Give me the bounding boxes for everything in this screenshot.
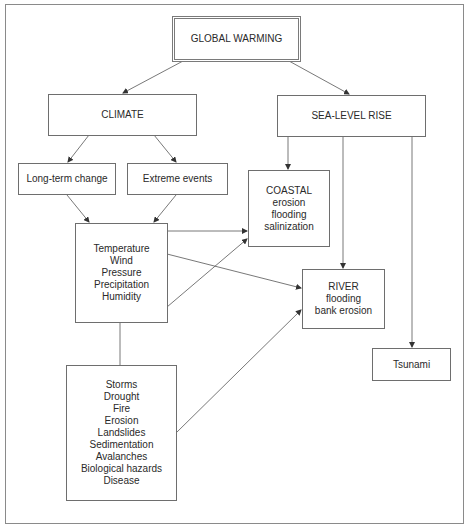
node-line: Fire <box>113 403 130 415</box>
node-label: Extreme events <box>143 173 212 185</box>
node-line: erosion <box>273 197 306 209</box>
node-title: RIVER <box>328 281 359 293</box>
node-global-warming: GLOBAL WARMING <box>172 16 301 62</box>
node-line: Drought <box>104 391 140 403</box>
edge-extreme-to-variables <box>154 195 176 222</box>
node-label: CLIMATE <box>101 109 144 121</box>
node-line: bank erosion <box>315 305 372 317</box>
node-extreme-events: Extreme events <box>127 163 228 195</box>
node-climate: CLIMATE <box>48 94 197 136</box>
node-line: Precipitation <box>94 279 149 291</box>
node-line: Disease <box>103 475 139 487</box>
node-line: Temperature <box>93 243 149 255</box>
node-label: Tsunami <box>393 359 430 371</box>
node-line: Storms <box>106 379 138 391</box>
node-river: RIVER flooding bank erosion <box>302 269 385 329</box>
edge-hazards-to-river <box>176 310 301 433</box>
node-line: Wind <box>110 255 133 267</box>
edge-variables-to-river <box>167 254 301 288</box>
node-line: Avalanches <box>96 451 148 463</box>
node-label: GLOBAL WARMING <box>191 33 283 45</box>
edge-climate-to-longterm <box>68 135 89 162</box>
node-climate-variables: Temperature Wind Pressure Precipitation … <box>75 223 168 323</box>
node-label: SEA-LEVEL RISE <box>311 110 391 122</box>
node-tsunami: Tsunami <box>372 348 451 381</box>
node-line: Pressure <box>101 267 141 279</box>
node-line: flooding <box>326 293 361 305</box>
node-line: Humidity <box>102 291 141 303</box>
node-line: Biological hazards <box>81 463 162 475</box>
node-hazards: Storms Drought Fire Erosion Landslides S… <box>66 365 177 501</box>
node-long-term-change: Long-term change <box>18 163 116 195</box>
node-title: COASTAL <box>266 185 312 197</box>
edge-longterm-to-variables <box>67 195 89 222</box>
node-line: salinization <box>264 221 313 233</box>
node-coastal: COASTAL erosion flooding salinization <box>248 170 330 247</box>
node-label: Long-term change <box>26 173 107 185</box>
edge-climate-to-extreme <box>154 135 176 162</box>
edge-global-to-climate <box>123 61 183 93</box>
edge-global-to-sealevel <box>289 61 349 94</box>
node-line: flooding <box>271 209 306 221</box>
node-line: Erosion <box>105 415 139 427</box>
node-line: Sedimentation <box>90 439 154 451</box>
node-line: Landslides <box>98 427 146 439</box>
edge-variables-to-coastal-2 <box>167 239 247 307</box>
node-sea-level-rise: SEA-LEVEL RISE <box>277 95 426 137</box>
